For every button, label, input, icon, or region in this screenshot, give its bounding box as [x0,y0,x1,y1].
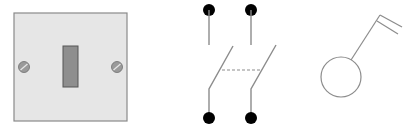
bottom-left-terminal [203,112,215,124]
left-contact-arm [209,46,233,118]
toggle-rocker [63,46,78,87]
pull-switch-symbol [321,15,402,97]
switch-plate [14,13,127,121]
right-contact-arm [251,45,276,118]
pull-switch-stem [351,15,380,60]
bottom-right-terminal [245,112,257,124]
left-screw-icon [19,62,30,73]
pull-switch-ring [321,57,361,97]
diagram-canvas [0,0,419,133]
double-pole-switch-symbol [203,4,276,124]
right-screw-icon [112,62,123,73]
